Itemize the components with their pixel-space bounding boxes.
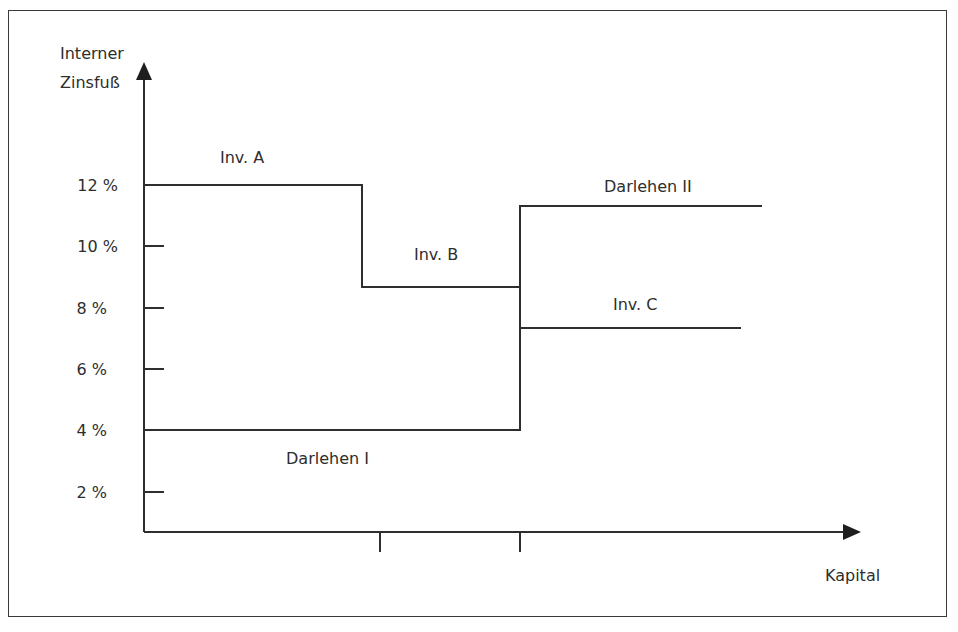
y-tick-label: 4 % xyxy=(47,423,107,439)
y-axis-title-line1: Interner xyxy=(60,46,124,62)
y-tick-label: 12 % xyxy=(58,178,118,194)
y-axis-title-line2: Zinsfuß xyxy=(60,75,120,91)
label-darlehen-2: Darlehen II xyxy=(604,179,692,195)
label-inv-b: Inv. B xyxy=(414,247,458,263)
loan-curve xyxy=(144,206,762,430)
y-tick-label: 2 % xyxy=(47,485,107,501)
investment-curve-ab xyxy=(144,185,520,287)
step-chart xyxy=(0,0,958,632)
y-tick-label: 10 % xyxy=(58,239,118,255)
y-axis-arrow-icon xyxy=(136,62,152,80)
y-tick-label: 6 % xyxy=(47,362,107,378)
y-tick-label: 8 % xyxy=(47,301,107,317)
label-inv-a: Inv. A xyxy=(220,150,264,166)
label-inv-c: Inv. C xyxy=(613,297,657,313)
x-axis-title: Kapital xyxy=(825,568,880,584)
x-axis-arrow-icon xyxy=(843,524,861,540)
label-darlehen-1: Darlehen I xyxy=(286,451,369,467)
